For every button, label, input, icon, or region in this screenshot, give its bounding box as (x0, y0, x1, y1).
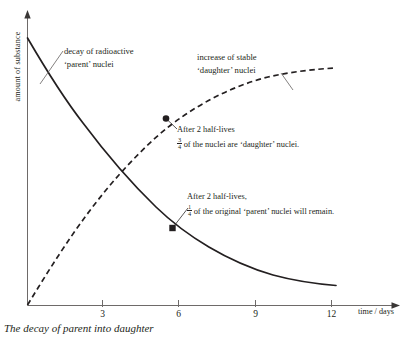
x-tick-label-3: 3 (93, 309, 113, 319)
parent-annotation-line2: 1 4 of the original ‘parent’ nuclei will… (187, 204, 334, 219)
daughter-curve-label: increase of stable ‘daughter’ nuclei (197, 51, 257, 76)
fraction-one-quarter: 1 4 (187, 204, 192, 218)
parent-curve-label-line1: decay of radioactive (64, 45, 134, 58)
x-axis-title: time / days (358, 307, 394, 316)
fraction-three-quarters: 3 4 (177, 137, 182, 151)
marker-daughter-two-half-lives (163, 115, 170, 122)
daughter-annotation-line1: After 2 half-lives (177, 124, 299, 137)
fraction-denominator: 4 (177, 143, 182, 150)
curve-daughter-growth (28, 68, 337, 305)
daughter-curve-label-line1: increase of stable (197, 51, 257, 64)
daughter-curve-label-line2: ‘daughter’ nuclei (197, 64, 257, 77)
axis-y (24, 10, 30, 306)
curve-parent-decay (28, 38, 337, 286)
y-axis-title: amount of substance (13, 19, 22, 115)
parent-annotation-line1: After 2 half-lives, (187, 191, 334, 204)
figure-caption: The decay of parent into daughter (4, 322, 154, 334)
x-tick-label-6: 6 (169, 309, 189, 319)
axis-x (28, 302, 401, 308)
parent-annotation: After 2 half-lives, 1 4 of the original … (187, 191, 334, 218)
parent-annotation-text: of the original ‘parent’ nuclei will rem… (194, 207, 335, 216)
figure-decay-of-parent-into-daughter: amount of substance time / days 3 6 9 12… (0, 0, 408, 342)
daughter-annotation: After 2 half-lives 3 4 of the nuclei are… (177, 124, 299, 151)
parent-curve-label-line2: ‘parent’ nuclei (64, 58, 134, 71)
x-tick-label-12: 12 (322, 309, 342, 319)
daughter-annotation-text: of the nuclei are ‘daughter’ nuclei. (184, 140, 300, 149)
parent-curve-label: decay of radioactive ‘parent’ nuclei (64, 45, 134, 70)
leader-daughter-curve-label (281, 73, 293, 90)
x-tick-label-9: 9 (246, 309, 266, 319)
marker-parent-two-half-lives (169, 225, 175, 231)
fraction-denominator: 4 (187, 210, 192, 217)
daughter-annotation-line2: 3 4 of the nuclei are ‘daughter’ nuclei. (177, 137, 299, 152)
